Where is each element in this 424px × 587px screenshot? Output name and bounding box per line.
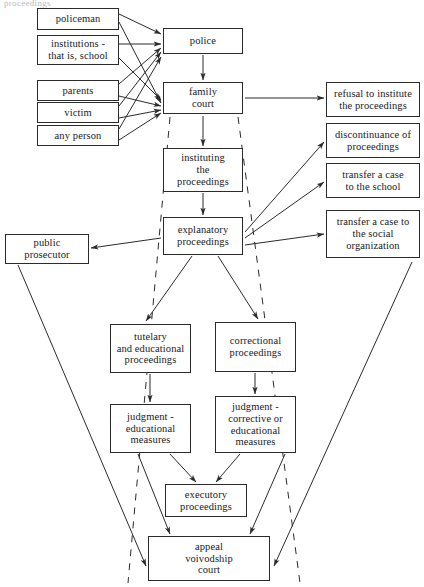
node-discontinuance: discontinuance of proceedings: [326, 123, 420, 158]
node-police: police: [163, 28, 243, 54]
edge-victim-to-family-court: [119, 110, 161, 118]
node-policeman: policeman: [37, 8, 119, 30]
node-appeal: appeal voivodship court: [148, 536, 270, 581]
edge-judgment-edu-to-executory: [170, 454, 196, 482]
node-family-court: family court: [163, 82, 243, 114]
node-institutions: institutions - that is, school: [37, 35, 119, 65]
edge-explanatory-to-discontinuance: [245, 142, 324, 232]
node-victim: victim: [37, 102, 119, 123]
edge-parents-to-police: [119, 48, 161, 84]
edge-explanatory-to-prosecutor: [91, 238, 161, 248]
node-prosecutor: public prosecutor: [5, 234, 89, 264]
edge-explanatory-to-transfer-social: [245, 234, 324, 245]
node-transfer-social: transfer a case to the social organizati…: [326, 210, 420, 258]
node-tutelary: tutelary and educational proceedings: [110, 324, 191, 373]
edge-judgment-corr-to-executory: [216, 454, 240, 482]
edge-explanatory-to-tutelary: [146, 256, 192, 321]
node-judgment-corr: judgment - corrective or educational mea…: [215, 396, 296, 453]
edge-victim-to-police: [119, 52, 161, 106]
edge-any-person-to-family-court: [119, 113, 161, 140]
node-judgment-edu: judgment - educational measures: [110, 404, 191, 453]
flowchart-canvas: proceedings policemaninstitutions - that…: [0, 0, 424, 587]
node-parents: parents: [37, 80, 119, 101]
edge-any-person-to-police: [119, 57, 161, 129]
edge-explanatory-to-transfer-school: [245, 182, 324, 238]
edge-explanatory-to-correctional: [218, 256, 258, 319]
edge-policeman-to-police: [119, 14, 161, 34]
node-transfer-school: transfer a case to the school: [326, 163, 420, 198]
edge-policeman-to-family-court: [119, 22, 161, 103]
edge-parents-to-family-court: [119, 96, 161, 106]
node-explanatory: explanatory proceedings: [163, 217, 243, 255]
figure-caption-fragment: proceedings: [4, 0, 51, 8]
edge-judgment-corr-to-appeal: [250, 454, 285, 534]
node-executory: executory proceedings: [165, 484, 247, 517]
node-instituting: instituting the proceedings: [163, 148, 243, 192]
node-correctional: correctional proceedings: [215, 322, 296, 372]
node-refusal: refusal to institute the proceedings: [326, 82, 420, 117]
node-any-person: any person: [37, 125, 119, 146]
edge-institutions-to-family-court: [119, 58, 161, 100]
